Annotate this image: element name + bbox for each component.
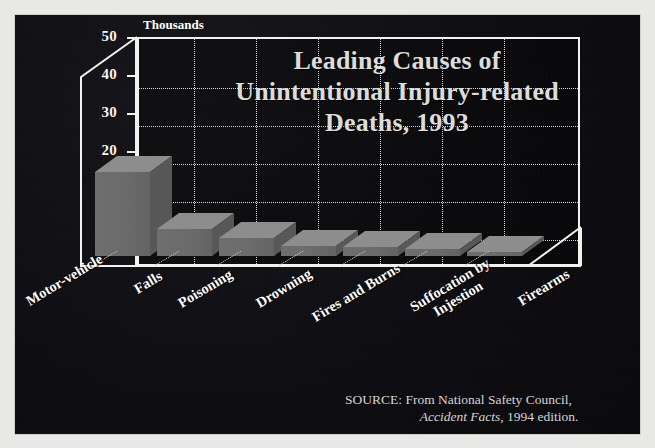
source-publication-title: Accident Facts <box>420 409 501 424</box>
bar-suffocation-by-injestion <box>405 15 460 256</box>
source-note-line-2-rest: , 1994 edition. <box>500 409 578 424</box>
bar-poisoning <box>219 15 274 256</box>
source-note-line-2: Accident Facts, 1994 edition. <box>345 408 635 425</box>
bar-drowning <box>281 15 336 256</box>
source-note-line-1: SOURCE: From National Safety Council, <box>345 392 572 407</box>
bar-fires-and-burns <box>343 15 398 256</box>
chart-frame: Thousands <box>14 14 641 435</box>
bar-falls <box>157 15 212 256</box>
bar-motor-vehicle <box>95 15 150 256</box>
x-label-motor-vehicle: Motor-vehicle <box>23 250 106 309</box>
chart-root: Thousands <box>0 0 655 448</box>
source-note: SOURCE: From National Safety Council, Ac… <box>345 391 635 425</box>
bar-firearms <box>467 15 522 256</box>
plot-area: Thousands <box>15 15 641 435</box>
bar-3d-faces <box>467 15 577 275</box>
